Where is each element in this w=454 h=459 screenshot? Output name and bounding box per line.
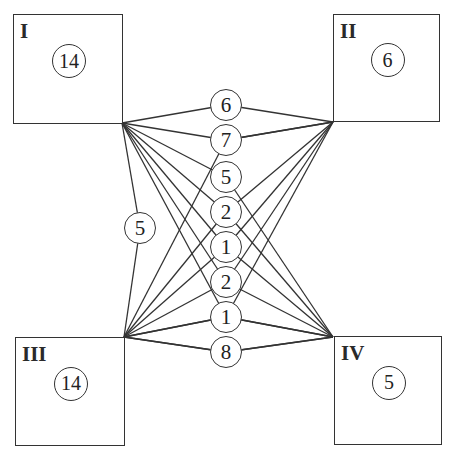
crossing-edge-5b [226,317,333,337]
set-label: I [20,19,28,44]
intersection-node: 6 [210,89,242,121]
crossing-edge-3a [122,123,226,282]
set-box-i: I14 [13,14,123,124]
set-label: II [340,19,356,44]
intersection-node: 5 [210,161,242,193]
edge-node-6-II [226,122,333,317]
intersection-node: 2 [210,266,242,298]
edge-node-0-II [226,105,333,122]
intersection-node: 2 [210,196,242,228]
crossing-edge-4b [226,122,333,212]
crossing-edge-3b [226,282,333,337]
intersection-node: 1 [210,231,242,263]
crossing-edge-0b [226,122,333,140]
side-intersection-node: 5 [124,212,156,244]
intersection-node: 7 [210,124,242,156]
edge-node-3-IV [226,212,333,337]
set-count-circle: 6 [371,43,405,77]
set-box-ii: II6 [333,14,440,122]
set-count-circle: 14 [52,44,86,78]
set-box-iii: III14 [15,337,125,446]
crossing-edge-1b [226,122,333,247]
set-label: IV [341,341,364,366]
intersection-node: 8 [210,336,242,368]
set-count-circle: 5 [372,366,406,400]
edge-node-4-IV [226,247,333,337]
set-count-circle: 14 [54,367,88,401]
intersection-node: 1 [210,301,242,333]
crossing-edge-6b [226,337,333,352]
set-box-iv: IV5 [334,336,442,445]
set-label: III [22,342,47,367]
